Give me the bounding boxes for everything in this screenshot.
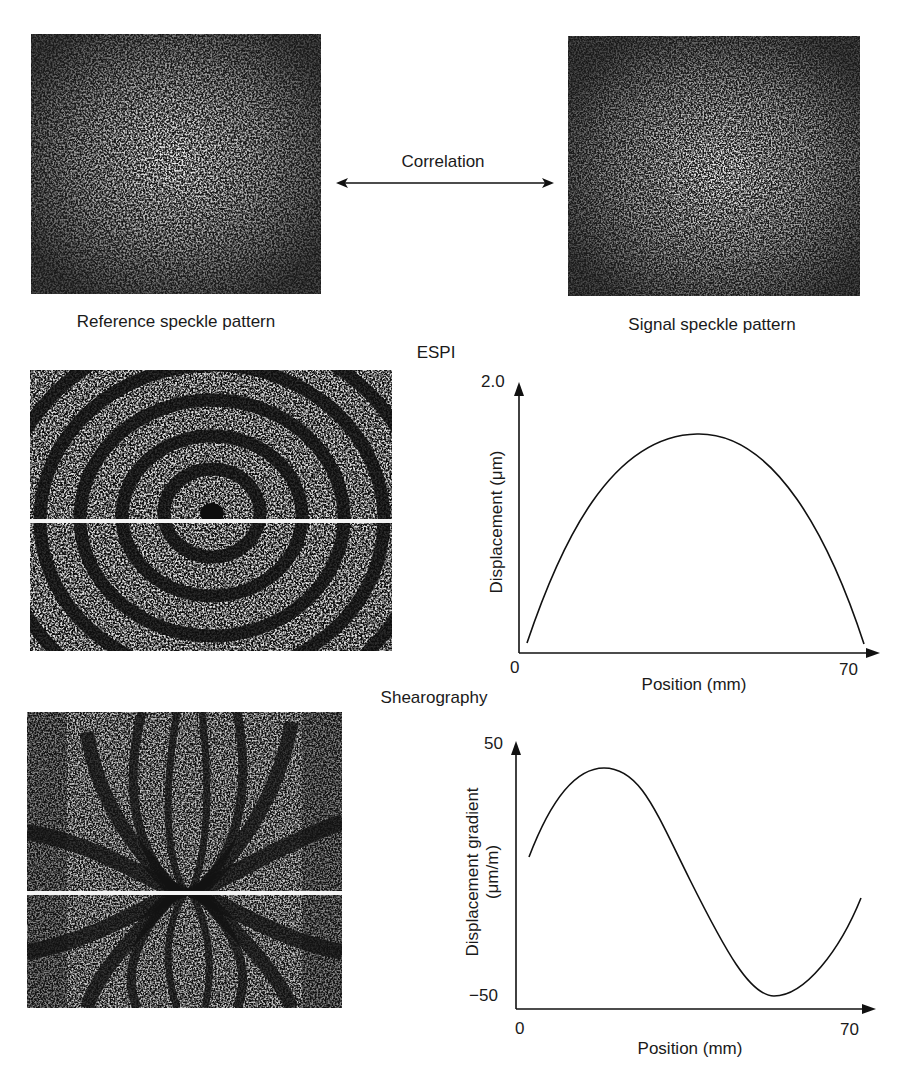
shear-x-tick-max: 70 xyxy=(840,1020,859,1040)
correlation-label: Correlation xyxy=(401,152,484,172)
reference-speckle-caption: Reference speckle pattern xyxy=(77,312,275,332)
espi-y-axis-label: Displacement (μm) xyxy=(487,451,507,594)
shear-y-axis-label-text: Displacement gradient (μm/m) xyxy=(463,787,502,956)
signal-speckle-image xyxy=(568,36,860,296)
shearography-fringe-image xyxy=(27,712,342,1008)
espi-x-axis-label: Position (mm) xyxy=(642,675,747,695)
shear-y-axis-label: Displacement gradient (μm/m) xyxy=(463,762,503,982)
espi-x-tick-max: 70 xyxy=(839,660,858,680)
shear-y-tick-min: −50 xyxy=(469,986,498,1006)
espi-x-tick-min: 0 xyxy=(510,658,519,678)
shear-x-axis-label: Position (mm) xyxy=(638,1039,743,1059)
shear-x-tick-min: 0 xyxy=(515,1019,524,1039)
signal-speckle-caption: Signal speckle pattern xyxy=(628,315,795,335)
espi-y-tick-max: 2.0 xyxy=(481,372,505,392)
shear-y-tick-max: 50 xyxy=(484,734,503,754)
double-arrow-icon xyxy=(330,175,560,191)
espi-fringe-image xyxy=(30,370,392,651)
espi-section-title: ESPI xyxy=(417,343,456,363)
shearography-section-title: Shearography xyxy=(381,688,488,708)
reference-speckle-image xyxy=(31,34,321,294)
